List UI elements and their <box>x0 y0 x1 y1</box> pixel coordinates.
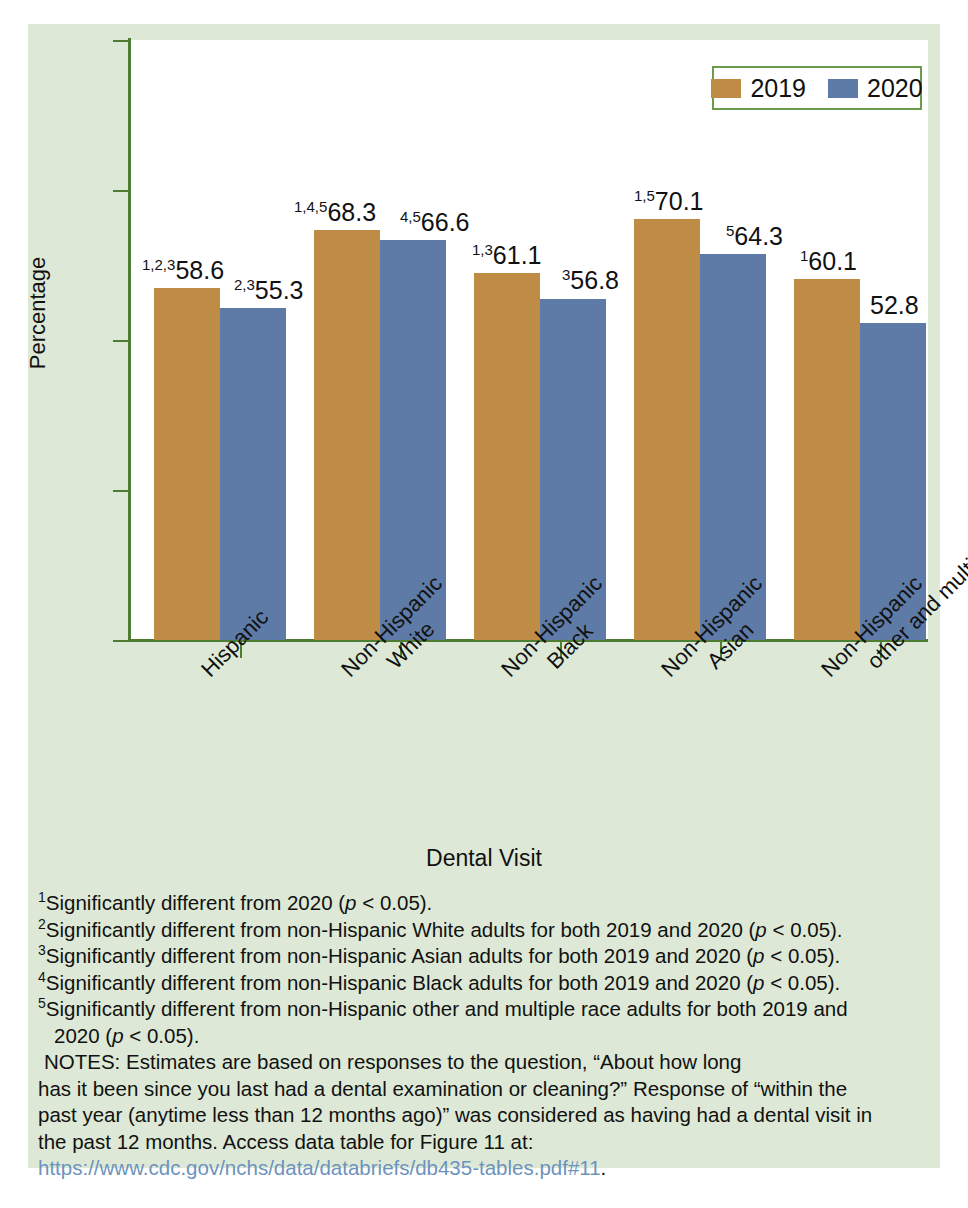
value-label-2020-nh-black: 356.8 <box>562 268 619 293</box>
superscript-2019-nh-white: 1,4,5 <box>294 198 327 215</box>
footnote-text-5: Significantly different from non-Hispani… <box>46 997 848 1020</box>
value-label-2019-nh-black: 1,361.1 <box>472 243 542 268</box>
value-label-2020-nh-other: 52.8 <box>870 293 919 318</box>
value-text: 55.3 <box>255 276 304 304</box>
footnote-marker-2: 2 <box>38 916 46 932</box>
footnote-marker-3: 3 <box>38 942 46 958</box>
footnote-5-cont-text: 2020 ( <box>54 1024 112 1047</box>
notes-line-4: the past 12 months. Access data table fo… <box>38 1129 938 1156</box>
superscript-2019-nh-black: 1,3 <box>472 241 493 258</box>
footnote-4: 4Significantly different from non-Hispan… <box>38 970 938 997</box>
value-label-2019-nh-other: 160.1 <box>800 249 857 274</box>
footnote-text-4: Significantly different from non-Hispani… <box>46 971 753 994</box>
legend-swatch-2020-icon <box>828 79 858 98</box>
value-label-2020-nh-asian: 564.3 <box>726 224 783 249</box>
superscript-2019-hispanic: 1,2,3 <box>142 256 175 273</box>
value-text: 58.6 <box>175 256 224 284</box>
y-tick-25 <box>113 490 128 492</box>
footnote-italic-2: p <box>755 918 766 941</box>
chart-legend: 2019 2020 <box>712 66 922 110</box>
legend-item-2020[interactable]: 2020 <box>828 76 923 101</box>
y-tick-0 <box>113 640 128 642</box>
bar-2019-nh-black[interactable] <box>474 273 540 640</box>
bar-2019-hispanic[interactable] <box>154 288 220 640</box>
bar-2020-hispanic[interactable] <box>220 308 286 640</box>
footnote-1: 1Significantly different from 2020 (p < … <box>38 890 938 917</box>
bar-chart: 100 75 50 25 0 Percentage 1,2,358.6 2,35… <box>0 0 968 880</box>
footnote-text-3b: < 0.05). <box>765 944 841 967</box>
notes-line-3: past year (anytime less than 12 months a… <box>38 1102 938 1129</box>
footnote-5-cont-end: < 0.05). <box>124 1024 200 1047</box>
footnote-italic-1: p <box>345 891 356 914</box>
value-label-2019-hispanic: 1,2,358.6 <box>142 258 224 283</box>
footnote-5-cont-italic: p <box>112 1024 123 1047</box>
value-text: 56.8 <box>570 266 619 294</box>
y-tick-50 <box>113 340 128 342</box>
bar-2019-nh-asian[interactable] <box>634 219 700 640</box>
value-text: 64.3 <box>734 222 783 250</box>
footnote-italic-4: p <box>753 971 764 994</box>
footnote-text-1b: < 0.05). <box>357 891 433 914</box>
value-text: 70.1 <box>655 187 704 215</box>
notes-line-2: has it been since you last had a dental … <box>38 1076 938 1103</box>
superscript-2020-hispanic: 2,3 <box>234 276 255 293</box>
value-text: 52.8 <box>870 291 919 319</box>
value-label-2020-nh-white: 4,566.6 <box>400 210 470 235</box>
bar-2019-nh-other[interactable] <box>794 279 860 640</box>
footnote-3: 3Significantly different from non-Hispan… <box>38 943 938 970</box>
value-text: 60.1 <box>808 247 857 275</box>
notes-line-1: NOTES: Estimates are based on responses … <box>38 1049 938 1076</box>
notes-url-line: https://www.cdc.gov/nchs/data/databriefs… <box>38 1155 938 1182</box>
legend-label-2019: 2019 <box>750 76 806 101</box>
footnote-marker-4: 4 <box>38 969 46 985</box>
footnote-5-continuation: 2020 (p < 0.05). <box>38 1023 938 1050</box>
superscript-2020-nh-white: 4,5 <box>400 208 421 225</box>
value-text: 61.1 <box>493 241 542 269</box>
footnote-2: 2Significantly different from non-Hispan… <box>38 917 938 944</box>
footnotes-block: 1Significantly different from 2020 (p < … <box>38 890 938 1182</box>
footnote-text-2: Significantly different from non-Hispani… <box>46 918 756 941</box>
footnote-text-3: Significantly different from non-Hispani… <box>46 944 753 967</box>
footnote-5: 5Significantly different from non-Hispan… <box>38 996 938 1023</box>
y-axis-title: Percentage <box>25 213 51 413</box>
footnote-text-1: Significantly different from 2020 ( <box>46 891 345 914</box>
y-tick-75 <box>113 190 128 192</box>
footnote-text-2b: < 0.05). <box>767 918 843 941</box>
legend-label-2020: 2020 <box>867 76 923 101</box>
bar-2019-nh-white[interactable] <box>314 230 380 640</box>
footnote-marker-1: 1 <box>38 889 46 905</box>
y-tick-100 <box>113 40 128 42</box>
notes-url-period: . <box>601 1156 607 1179</box>
footnote-marker-5: 5 <box>38 995 46 1011</box>
legend-swatch-2019-icon <box>711 79 741 98</box>
x-axis-title: Dental Visit <box>0 845 968 872</box>
legend-item-2019[interactable]: 2019 <box>711 76 806 101</box>
footnote-italic-3: p <box>753 944 764 967</box>
value-text: 68.3 <box>327 198 376 226</box>
value-label-2019-nh-asian: 1,570.1 <box>634 189 704 214</box>
bars-layer <box>130 40 928 640</box>
value-label-2020-hispanic: 2,355.3 <box>234 278 304 303</box>
data-table-link[interactable]: https://www.cdc.gov/nchs/data/databriefs… <box>38 1156 601 1179</box>
value-label-2019-nh-white: 1,4,568.3 <box>294 200 376 225</box>
superscript-2019-nh-asian: 1,5 <box>634 187 655 204</box>
footnote-text-4b: < 0.05). <box>764 971 840 994</box>
value-text: 66.6 <box>421 208 470 236</box>
